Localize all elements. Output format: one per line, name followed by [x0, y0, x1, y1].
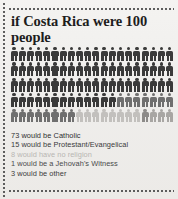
person-icon [51, 93, 59, 107]
person-icon [59, 47, 67, 61]
person-icon [35, 93, 43, 107]
person-icon [125, 78, 133, 92]
person-icon [43, 62, 51, 76]
person-icon [67, 93, 75, 107]
person-icon [116, 47, 124, 61]
person-icon [125, 93, 133, 107]
person-icon [10, 109, 18, 123]
person-icon [166, 47, 174, 61]
person-icon [108, 93, 116, 107]
person-icon [133, 109, 141, 123]
person-icon [35, 47, 43, 61]
person-icon [100, 62, 108, 76]
person-icon [141, 47, 149, 61]
person-icon [67, 62, 75, 76]
person-icon [35, 78, 43, 92]
person-icon [84, 93, 92, 107]
person-icon [76, 62, 84, 76]
person-icon [116, 109, 124, 123]
person-icon [51, 109, 59, 123]
person-icon [18, 109, 26, 123]
dotted-rule-left [3, 2, 5, 197]
person-icon [133, 93, 141, 107]
person-icon [84, 109, 92, 123]
person-icon [10, 47, 18, 61]
legend-item: 8 would have no religion [11, 150, 173, 159]
person-icon [100, 93, 108, 107]
person-icon [133, 78, 141, 92]
person-icon [35, 109, 43, 123]
person-icon [26, 78, 34, 92]
person-icon [149, 62, 157, 76]
dotted-rule-top [8, 8, 174, 10]
infographic-poster: if Costa Rica were 100 people 73 would b… [0, 0, 178, 199]
person-icon [76, 93, 84, 107]
person-icon [125, 62, 133, 76]
person-icon [10, 78, 18, 92]
person-icon [108, 78, 116, 92]
person-icon [92, 109, 100, 123]
person-icon [43, 47, 51, 61]
person-icon [125, 47, 133, 61]
person-icon [100, 47, 108, 61]
person-icon [133, 62, 141, 76]
person-icon [125, 109, 133, 123]
person-icon [166, 93, 174, 107]
page-title: if Costa Rica were 100 people [11, 14, 171, 45]
pictogram-grid [10, 47, 174, 124]
person-icon [116, 78, 124, 92]
person-icon [92, 93, 100, 107]
person-icon [92, 78, 100, 92]
person-icon [59, 93, 67, 107]
person-icon [149, 109, 157, 123]
dotted-rule-bottom [8, 190, 174, 192]
person-icon [26, 47, 34, 61]
person-icon [141, 109, 149, 123]
person-icon [157, 109, 165, 123]
pictogram-row [10, 47, 174, 62]
person-icon [92, 47, 100, 61]
person-icon [76, 78, 84, 92]
person-icon [100, 109, 108, 123]
person-icon [141, 78, 149, 92]
person-icon [18, 78, 26, 92]
person-icon [26, 93, 34, 107]
person-icon [18, 47, 26, 61]
person-icon [67, 109, 75, 123]
person-icon [51, 78, 59, 92]
person-icon [18, 93, 26, 107]
person-icon [166, 62, 174, 76]
legend-item: 15 would be Protestant/Evangelical [11, 140, 173, 149]
person-icon [26, 62, 34, 76]
person-icon [116, 62, 124, 76]
person-icon [67, 47, 75, 61]
person-icon [10, 62, 18, 76]
person-icon [141, 62, 149, 76]
person-icon [43, 78, 51, 92]
person-icon [157, 93, 165, 107]
person-icon [116, 93, 124, 107]
person-icon [59, 78, 67, 92]
person-icon [157, 47, 165, 61]
person-icon [108, 47, 116, 61]
person-icon [51, 47, 59, 61]
person-icon [108, 109, 116, 123]
person-icon [67, 78, 75, 92]
person-icon [51, 62, 59, 76]
pictogram-row [10, 78, 174, 93]
person-icon [26, 109, 34, 123]
person-icon [166, 109, 174, 123]
person-icon [149, 47, 157, 61]
person-icon [108, 62, 116, 76]
person-icon [84, 47, 92, 61]
person-icon [92, 62, 100, 76]
legend-item: 73 would be Catholic [11, 131, 173, 140]
person-icon [149, 93, 157, 107]
person-icon [84, 62, 92, 76]
person-icon [59, 109, 67, 123]
legend-list: 73 would be Catholic15 would be Protesta… [11, 131, 173, 178]
pictogram-row [10, 109, 174, 124]
person-icon [76, 47, 84, 61]
legend-item: 3 would be other [11, 169, 173, 178]
person-icon [76, 109, 84, 123]
